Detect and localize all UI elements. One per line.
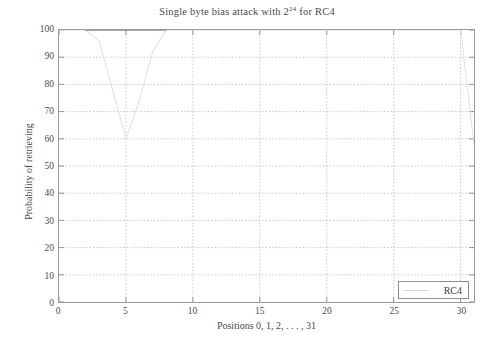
x-tick-label: 15 [255,306,265,316]
chart-legend[interactable]: RC4 [398,281,469,299]
x-tick-label: 25 [390,306,400,316]
plot-canvas [59,30,474,302]
x-axis-tick-labels: 051015202530 [58,306,475,320]
y-axis-title: Probability of retrieving [23,82,34,262]
y-tick-label: 100 [8,24,54,34]
data-series-rc4 [59,30,474,144]
y-tick-label: 10 [8,271,54,281]
x-axis-title: Positions 0, 1, 2, . . . , 31 [58,320,475,331]
chart-figure: Single byte bias attack with 224 for RC4… [0,0,494,343]
plot-area [58,29,475,303]
y-tick-label: 0 [8,298,54,308]
chart-title-suffix: for RC4 [296,6,334,17]
chart-title-prefix: Single byte bias attack with 2 [159,6,289,17]
chart-title: Single byte bias attack with 224 for RC4 [0,6,494,17]
x-tick-label: 30 [457,306,467,316]
legend-line-sample-rc4 [403,290,429,291]
x-tick-label: 10 [188,306,198,316]
y-tick-label: 90 [8,51,54,61]
x-tick-label: 0 [56,306,61,316]
x-tick-label: 5 [123,306,128,316]
x-tick-label: 20 [322,306,332,316]
legend-label-rc4: RC4 [429,285,464,296]
